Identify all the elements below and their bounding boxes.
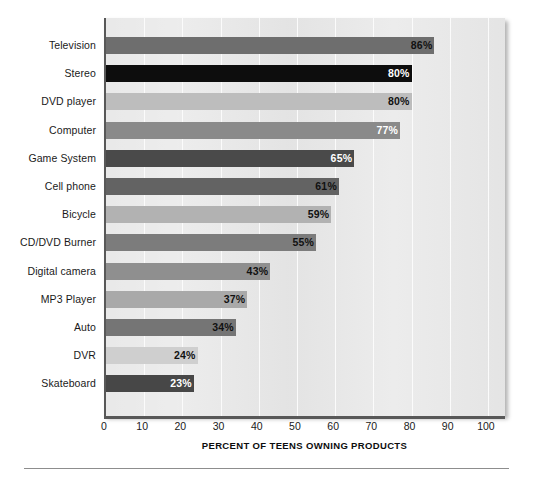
x-axis-line bbox=[104, 416, 505, 419]
category-label: Cell phone bbox=[0, 180, 96, 192]
bar-value-label: 37% bbox=[215, 291, 245, 308]
bar-value-label: 77% bbox=[368, 122, 398, 139]
x-tick-label: 50 bbox=[289, 420, 301, 432]
bar-value-label: 34% bbox=[204, 319, 234, 336]
x-tick-label: 0 bbox=[101, 420, 107, 432]
x-tick-label: 40 bbox=[251, 420, 263, 432]
bar-row: 59% bbox=[106, 206, 505, 223]
bar bbox=[106, 122, 400, 139]
bar-row: 24% bbox=[106, 347, 505, 364]
bar-row: 34% bbox=[106, 319, 505, 336]
category-label: Television bbox=[0, 39, 96, 51]
x-tick-label: 70 bbox=[365, 420, 377, 432]
bar bbox=[106, 93, 412, 110]
category-label: DVD player bbox=[0, 95, 96, 107]
bar bbox=[106, 37, 434, 54]
category-label: Skateboard bbox=[0, 377, 96, 389]
bar-row: 80% bbox=[106, 65, 505, 82]
bar-row: 37% bbox=[106, 291, 505, 308]
category-label: Bicycle bbox=[0, 208, 96, 220]
category-label: DVR bbox=[0, 349, 96, 361]
bar-value-label: 55% bbox=[284, 234, 314, 251]
bar-row: 55% bbox=[106, 234, 505, 251]
category-label: Digital camera bbox=[0, 265, 96, 277]
bar-row: 23% bbox=[106, 375, 505, 392]
x-tick-label: 20 bbox=[175, 420, 187, 432]
x-tick-label: 60 bbox=[327, 420, 339, 432]
bar bbox=[106, 206, 331, 223]
bar-value-label: 86% bbox=[402, 37, 432, 54]
category-label: CD/DVD Burner bbox=[0, 236, 96, 248]
bar-row: 77% bbox=[106, 122, 505, 139]
bar-value-label: 59% bbox=[299, 206, 329, 223]
bar-value-label: 61% bbox=[307, 178, 337, 195]
category-label: Computer bbox=[0, 124, 96, 136]
x-axis-title: PERCENT OF TEENS OWNING PRODUCTS bbox=[104, 440, 505, 451]
x-tick-label: 100 bbox=[477, 420, 495, 432]
bar-row: 65% bbox=[106, 150, 505, 167]
bar-row: 61% bbox=[106, 178, 505, 195]
footer-divider-rule bbox=[24, 468, 509, 469]
category-axis-labels: TelevisionStereoDVD playerComputerGame S… bbox=[0, 18, 100, 416]
bar bbox=[106, 65, 412, 82]
x-axis-tick-labels: 0102030405060708090100 bbox=[104, 420, 505, 436]
plot-area: 86%80%80%77%65%61%59%55%43%37%34%24%23% bbox=[104, 18, 505, 416]
category-label: MP3 Player bbox=[0, 293, 96, 305]
bar bbox=[106, 178, 339, 195]
bar-row: 86% bbox=[106, 37, 505, 54]
x-tick-label: 90 bbox=[442, 420, 454, 432]
x-tick-label: 80 bbox=[404, 420, 416, 432]
category-label: Stereo bbox=[0, 67, 96, 79]
bar-value-label: 65% bbox=[322, 150, 352, 167]
bar-value-label: 24% bbox=[166, 347, 196, 364]
bar-value-label: 80% bbox=[380, 93, 410, 110]
category-label: Game System bbox=[0, 152, 96, 164]
bar-row: 80% bbox=[106, 93, 505, 110]
bar-row: 43% bbox=[106, 263, 505, 280]
bar-value-label: 43% bbox=[238, 263, 268, 280]
x-tick-label: 10 bbox=[136, 420, 148, 432]
bar-value-label: 23% bbox=[162, 375, 192, 392]
bar bbox=[106, 150, 354, 167]
bar-chart-figure: TelevisionStereoDVD playerComputerGame S… bbox=[0, 0, 533, 480]
bar-value-label: 80% bbox=[380, 65, 410, 82]
category-label: Auto bbox=[0, 321, 96, 333]
x-tick-label: 30 bbox=[213, 420, 225, 432]
